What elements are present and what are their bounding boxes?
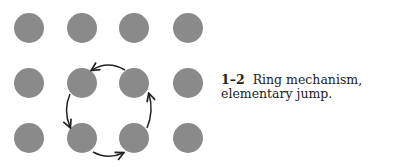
atom-r1-c3 xyxy=(173,68,203,98)
ring-mechanism-diagram xyxy=(0,0,220,167)
arrow-bottom xyxy=(93,152,123,156)
atom-r2-c1 xyxy=(67,123,97,153)
atom-r1-c2 xyxy=(119,68,149,98)
atom-r1-c1 xyxy=(67,68,97,98)
atom-r2-c2 xyxy=(119,123,149,153)
atom-r0-c3 xyxy=(173,13,203,43)
atom-r1-c0 xyxy=(14,68,44,98)
atom-r0-c2 xyxy=(119,13,149,43)
atom-lattice xyxy=(14,13,203,153)
arrow-left xyxy=(67,94,71,127)
arrow-top xyxy=(92,65,125,70)
figure-number: 1–2 xyxy=(221,72,245,87)
atom-r0-c1 xyxy=(67,13,97,43)
arrow-right xyxy=(147,94,151,128)
atom-r2-c0 xyxy=(14,123,44,153)
atom-r2-c3 xyxy=(173,123,203,153)
atom-r0-c0 xyxy=(14,13,44,43)
figure-caption: 1–2Ring mechanism, elementary jump. xyxy=(221,73,411,101)
